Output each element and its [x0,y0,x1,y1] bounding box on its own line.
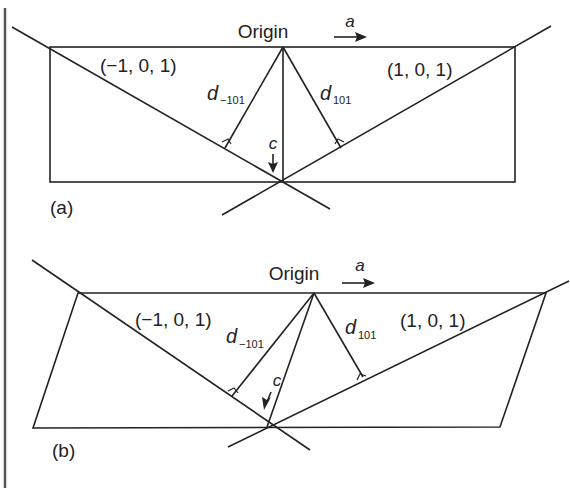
plane-label-minus101-a: (−1, 0, 1) [100,55,177,76]
plane-label-101-b: (1, 0, 1) [400,310,465,331]
d-101-subscript-a: 101 [333,94,351,106]
d-minus101-label-b: d [226,325,238,347]
d-minus101-label-a: d [207,82,219,104]
plane-label-101-a: (1, 0, 1) [387,59,452,80]
plane-trace-101 [228,281,569,447]
a-axis-arrow-a [334,32,367,42]
right-angle-marker-right [357,374,366,380]
a-axis-label-b: a [355,256,364,275]
c-axis-arrow-b [262,392,271,410]
c-axis-label-a: c [269,134,278,153]
c-axis-label-b: c [273,371,282,390]
right-angle-marker-left [228,388,238,393]
panel-b [32,260,569,450]
a-axis-label-a: a [345,12,354,31]
origin-label-a: Origin [238,21,289,42]
caption-a: (a) [50,197,73,218]
d-101-subscript-b: 101 [358,329,376,341]
plane-trace-101 [222,26,551,215]
d-minus101-subscript-a: −101 [220,94,245,106]
caption-b: (b) [52,440,75,461]
d-101-label-b: d [345,316,357,338]
c-axis-line [267,293,314,427]
d-101-label-a: d [320,82,332,104]
origin-label-b: Origin [269,263,320,284]
plane-label-minus101-b: (−1, 0, 1) [135,309,212,330]
panel-a [12,26,551,215]
c-axis-arrow-a [268,154,278,173]
a-axis-arrow-b [342,278,375,288]
crystal-plane-diagram: Origin a c (−1, 0, 1) (1, 0, 1) d −101 d… [0,0,570,490]
d-minus101-subscript-b: −101 [239,338,264,350]
